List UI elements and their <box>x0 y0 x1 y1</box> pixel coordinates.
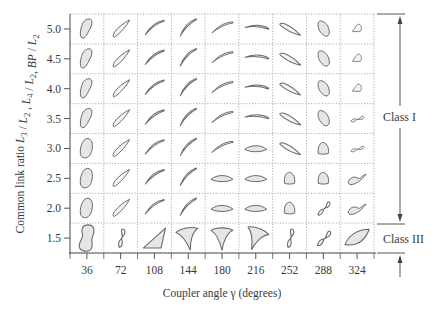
coupler-curve <box>143 140 166 154</box>
coupler-curve <box>351 116 364 122</box>
x-tick-label: 216 <box>247 264 265 276</box>
coupler-curve <box>245 205 267 211</box>
class-iii-label: Class III <box>383 232 424 246</box>
coupler-curve <box>282 228 298 248</box>
coupler-curve <box>318 172 328 184</box>
coupler-curve <box>211 228 233 250</box>
coupler-curve <box>280 49 301 69</box>
x-tick-label: 144 <box>180 264 198 276</box>
coupler-curve-atlas: 5.04.54.03.53.02.52.01.53672108144180216… <box>0 0 434 313</box>
coupler-curves <box>79 18 369 253</box>
coupler-curve <box>176 168 199 186</box>
coupler-curve <box>113 80 129 97</box>
y-tick-label: 5.0 <box>47 23 62 35</box>
coupler-curve <box>143 20 166 34</box>
coupler-curve <box>80 168 92 187</box>
coupler-curve <box>212 22 233 33</box>
coupler-curve <box>113 169 129 186</box>
coupler-curve <box>245 78 269 98</box>
coupler-curve <box>113 139 129 156</box>
y-tick-label: 2.0 <box>47 202 62 214</box>
coupler-curve <box>113 20 129 37</box>
coupler-curve <box>143 228 165 248</box>
coupler-curve <box>176 138 199 156</box>
coupler-curve <box>318 51 329 66</box>
x-tick-label: 108 <box>146 264 164 276</box>
coupler-curve <box>241 225 269 253</box>
x-tick-label: 252 <box>281 264 299 276</box>
coupler-curve <box>113 50 129 67</box>
coupler-curve <box>351 146 364 152</box>
coupler-curve <box>280 19 301 39</box>
coupler-curve <box>176 108 199 126</box>
y-tick-label: 1.5 <box>47 232 62 244</box>
coupler-curve <box>245 176 267 182</box>
coupler-curve <box>113 199 129 216</box>
coupler-curve <box>176 78 199 96</box>
coupler-curve <box>314 231 334 247</box>
y-tick-label: 3.5 <box>47 113 62 125</box>
coupler-curve <box>212 112 233 123</box>
y-axis-label: Common link ratio L3 / L2 , L4 / L2, BP … <box>14 35 41 234</box>
coupler-curve <box>348 204 366 214</box>
coupler-curve <box>352 54 361 62</box>
coupler-curve <box>245 48 269 68</box>
x-tick-label: 72 <box>115 264 127 276</box>
coupler-curve <box>80 49 92 68</box>
coupler-curve <box>176 19 199 37</box>
coupler-curve <box>143 50 166 64</box>
coupler-curve <box>352 24 361 32</box>
coupler-curve <box>80 79 92 98</box>
y-tick-label: 2.5 <box>47 172 62 184</box>
y-tick-label: 3.0 <box>47 142 62 154</box>
coupler-curve <box>280 139 301 159</box>
coupler-curve <box>212 52 233 63</box>
coupler-curve <box>212 141 233 152</box>
coupler-curve <box>80 109 92 128</box>
coupler-curve <box>245 108 269 128</box>
coupler-curve <box>318 111 329 126</box>
coupler-curve <box>348 174 366 184</box>
coupler-curve <box>212 82 233 93</box>
coupler-curve <box>176 48 199 66</box>
x-tick-label: 324 <box>348 264 366 276</box>
coupler-curve <box>280 109 301 129</box>
coupler-curve <box>143 170 166 184</box>
coupler-curve <box>143 80 166 94</box>
y-tick-label: 4.5 <box>47 53 62 65</box>
coupler-curve <box>80 138 92 157</box>
coupler-curve <box>245 18 269 38</box>
x-tick-label: 288 <box>315 264 333 276</box>
coupler-curve <box>284 172 294 184</box>
plot-grid <box>70 14 374 253</box>
class-i-label: Class I <box>383 110 416 124</box>
coupler-curve <box>280 79 301 99</box>
x-axis-label: Coupler angle γ (degrees) <box>163 287 282 300</box>
coupler-curve <box>318 142 328 154</box>
coupler-curve <box>345 229 369 245</box>
y-tick-label: 4.0 <box>47 83 62 95</box>
coupler-curve <box>245 146 267 152</box>
coupler-curve <box>176 198 199 216</box>
coupler-curve <box>352 84 361 92</box>
coupler-curve <box>211 205 233 211</box>
coupler-curve <box>176 226 202 252</box>
coupler-curve <box>80 198 92 217</box>
coupler-curve <box>315 201 333 215</box>
x-tick-label: 36 <box>81 264 93 276</box>
coupler-curve <box>143 110 166 124</box>
coupler-curve <box>211 176 233 182</box>
coupler-curve <box>80 19 92 38</box>
coupler-curve <box>284 202 294 214</box>
coupler-curve <box>113 228 129 248</box>
coupler-curve <box>143 199 166 213</box>
coupler-curve <box>113 110 129 127</box>
coupler-curve <box>318 81 329 96</box>
coupler-curve <box>79 225 94 251</box>
coupler-curve <box>318 21 329 36</box>
x-tick-label: 180 <box>213 264 231 276</box>
